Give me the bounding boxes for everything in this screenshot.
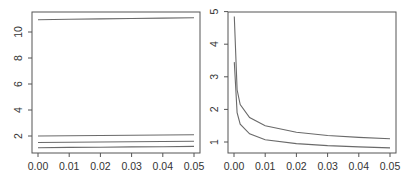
x-tick-label: 0.05 [380,160,401,172]
x-tick-label: 0.03 [121,160,142,172]
x-tick-label: 0.05 [184,160,205,172]
y-tick-label: 4 [208,41,220,47]
x-tick-label: 0.01 [59,160,80,172]
x-tick-label: 0.00 [28,160,49,172]
series-line-lower-curve [234,62,390,148]
y-tick-label: 4 [12,107,24,113]
x-tick-label: 0.03 [317,160,338,172]
series-line-line-2 [38,135,194,136]
y-tick-label: 10 [12,26,24,38]
series-line-upper-curve [234,17,390,139]
x-tick-label: 0.02 [90,160,111,172]
series-line-line-1 [38,18,194,20]
plot-frame [32,12,200,153]
series-line-line-3 [38,141,194,142]
y-tick-label: 6 [12,81,24,87]
x-tick-label: 0.02 [286,160,307,172]
y-tick-label: 5 [208,9,220,15]
y-tick-label: 1 [208,139,220,145]
right-panel: 0.000.010.020.030.040.0512345 [208,9,400,172]
left-panel: 0.000.010.020.030.040.05246810 [12,12,204,172]
y-tick-label: 3 [208,74,220,80]
series-line-line-4 [38,146,194,147]
y-tick-label: 2 [12,133,24,139]
x-tick-label: 0.01 [255,160,276,172]
chart-figure: 0.000.010.020.030.040.05246810 0.000.010… [0,0,409,183]
x-tick-label: 0.00 [224,160,245,172]
x-tick-label: 0.04 [349,160,370,172]
y-tick-label: 2 [208,106,220,112]
x-tick-label: 0.04 [153,160,174,172]
plot-frame [228,12,396,153]
y-tick-label: 8 [12,55,24,61]
